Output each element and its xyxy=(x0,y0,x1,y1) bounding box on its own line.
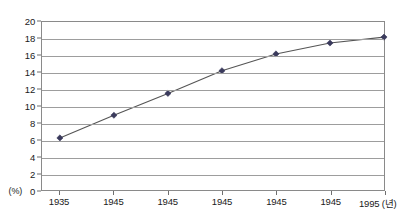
x-tick-mark xyxy=(385,191,386,195)
x-tick-label: 1945 xyxy=(266,196,286,207)
x-tick-mark xyxy=(168,191,169,195)
x-tick-label: 1995 (년) xyxy=(359,196,397,210)
x-tick-mark xyxy=(331,191,332,195)
x-tick-label: 1945 xyxy=(157,196,177,207)
x-tick-mark xyxy=(222,191,223,195)
x-tick-mark xyxy=(113,191,114,195)
x-tick-label: 1935 xyxy=(49,196,69,207)
x-tick-label: 1945 xyxy=(103,196,123,207)
x-tick-label: 1945 xyxy=(320,196,340,207)
x-tick-mark xyxy=(276,191,277,195)
x-tick-mark xyxy=(59,191,60,195)
line-chart: 02468101214161820(%) 1935194519451945194… xyxy=(0,0,401,219)
x-axis: 1935194519451945194519451995 (년) xyxy=(0,0,401,219)
x-tick-label: 1945 xyxy=(212,196,232,207)
